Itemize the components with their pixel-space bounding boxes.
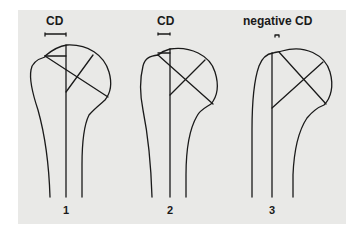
figure-1-humerus-outline [30,33,110,197]
figure-1-lateral-outline [30,57,50,197]
figure-3-negative-cd-label: negative CD [243,15,312,27]
figure-2-lateral-outline [141,55,158,197]
figure-2-cd-bracket [158,33,170,35]
figure-2-head-outline [158,48,217,197]
figure-3-head-axis [272,62,323,108]
figure-2-humerus-outline [141,33,218,197]
figure-1-cd-bracket [45,33,66,36]
figure-1-anatomical-neck-line [45,56,108,97]
figure-1-number: 1 [63,205,69,216]
figure-2-number: 2 [167,205,173,216]
figure-2-cd-label: CD [157,15,174,27]
figure-1-head-axis [66,55,93,92]
figure-3-number: 3 [269,205,275,216]
humerus-diagram [0,0,361,234]
figure-3-humerus-outline [252,35,332,197]
figure-3-lateral-outline [252,53,273,197]
figure-2-head-axis [170,60,205,95]
figure-3-negative-cd-bracket [275,35,279,37]
figure-1-head-outline [45,45,111,197]
figure-1-cd-label: CD [46,15,63,27]
figure-3-head-outline [273,49,332,197]
